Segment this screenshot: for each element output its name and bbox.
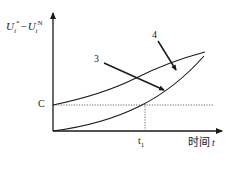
y-axis-label-sub-i-2: i [36, 27, 38, 35]
y-axis-label-sub-i-1: i [14, 27, 16, 35]
curve-3-label: 3 [94, 54, 99, 64]
figure-container: Ui*−UiN C t1 时间t 3 4 [0, 0, 237, 174]
y-axis-label-sup-n: N [38, 19, 43, 27]
curve-3 [53, 52, 205, 105]
y-axis-label: Ui*−UiN [6, 20, 43, 35]
y-axis-label-minus: − [19, 20, 27, 32]
y-axis-label-u-n: U [28, 20, 36, 32]
x-axis-label-var: t [210, 137, 215, 148]
curve-4-leader-arrow [158, 41, 176, 70]
y-axis-label-u-star: U [6, 20, 14, 32]
curve-4-label: 4 [152, 30, 157, 40]
c-level-label: C [38, 99, 45, 109]
curve-3-leader-arrow [104, 63, 164, 90]
x-axis-label-text: 时间 [188, 136, 210, 149]
t1-tick-label-sub: 1 [141, 141, 145, 149]
t1-tick-label: t1 [138, 136, 144, 149]
curve-4 [53, 56, 204, 131]
x-axis-label: 时间t [188, 137, 215, 148]
